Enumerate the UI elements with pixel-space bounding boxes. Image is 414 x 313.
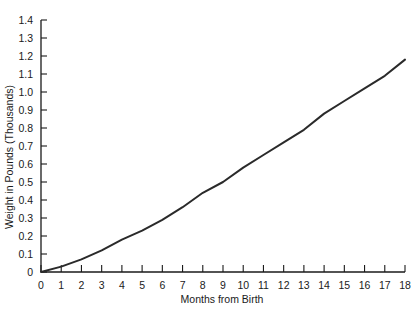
x-tick-label: 3 — [99, 279, 105, 291]
x-tick-label: 11 — [258, 279, 269, 291]
x-tick-label: 17 — [379, 279, 391, 291]
chart-canvas: 00.10.20.30.40.50.60.70.80.91.01.11.21.3… — [0, 0, 414, 313]
x-tick-label: 4 — [119, 279, 125, 291]
y-tick-label: 0.9 — [18, 104, 33, 116]
x-tick-label: 14 — [318, 279, 330, 291]
y-tick-label: 1.2 — [18, 50, 33, 62]
x-axis: 0123456789101112131415161718 — [38, 265, 411, 291]
y-tick-label: 1.4 — [18, 14, 33, 26]
x-tick-label: 16 — [359, 279, 371, 291]
y-tick-label: 0.7 — [18, 140, 33, 152]
x-tick-label: 0 — [38, 279, 44, 291]
y-tick-label: 0.4 — [18, 194, 33, 206]
y-tick-label: 0.1 — [18, 248, 33, 260]
x-tick-label: 18 — [399, 279, 411, 291]
x-tick-label: 2 — [79, 279, 85, 291]
y-tick-label: 1.1 — [18, 68, 33, 80]
y-tick-label: 0.6 — [18, 158, 33, 170]
y-axis: 00.10.20.30.40.50.60.70.80.91.01.11.21.3… — [18, 14, 47, 278]
y-tick-label: 0.8 — [18, 122, 33, 134]
y-tick-label: 1.0 — [18, 86, 33, 98]
x-axis-title: Months from Birth — [181, 293, 264, 305]
y-axis-title: Weight in Pounds (Thousands) — [3, 85, 15, 229]
weight-line — [41, 60, 405, 272]
y-tick-label: 0.5 — [18, 176, 33, 188]
x-tick-label: 6 — [159, 279, 165, 291]
y-tick-label: 0.3 — [18, 212, 33, 224]
x-tick-label: 13 — [298, 279, 310, 291]
y-tick-label: 1.3 — [18, 32, 33, 44]
x-tick-label: 1 — [58, 279, 64, 291]
y-tick-label: 0.2 — [18, 230, 33, 242]
x-tick-label: 8 — [200, 279, 206, 291]
y-tick-label: 0 — [27, 266, 33, 278]
series-layer — [41, 60, 405, 272]
x-tick-label: 15 — [338, 279, 350, 291]
x-tick-label: 5 — [139, 279, 145, 291]
x-tick-label: 7 — [180, 279, 186, 291]
weight-growth-chart: 00.10.20.30.40.50.60.70.80.91.01.11.21.3… — [0, 0, 414, 313]
x-tick-label: 9 — [220, 279, 226, 291]
x-tick-label: 10 — [237, 279, 249, 291]
x-tick-label: 12 — [278, 279, 290, 291]
